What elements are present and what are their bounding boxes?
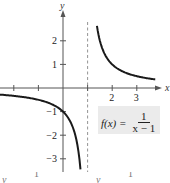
cropped-caption-fragments: y 1 y 1 [0,172,170,183]
function-label: f(x) = 1 x − 1 [101,111,155,134]
x-tick-label: 3 [134,92,139,103]
y-axis-label: y [59,0,65,11]
fragment-y-left: y [2,174,6,183]
curve-left-branch [0,95,80,170]
graph: xy2321−1−2−3 [0,0,170,183]
y-tick-label: 2 [52,35,57,46]
fraction-denominator: x − 1 [132,123,155,134]
axes [0,10,162,172]
function-curves [0,26,155,169]
y-axis-arrow-icon [61,10,66,17]
y-tick-label: −3 [46,153,57,164]
function-fraction: 1 x − 1 [132,111,155,134]
fragment-y-right: y [96,174,100,183]
x-axis-label: x [164,82,170,93]
tick-marks [14,41,137,159]
x-tick-label: 2 [109,92,114,103]
tick-labels: xy2321−1−2−3 [46,0,170,164]
function-label-lhs: f(x) = [101,117,126,129]
y-tick-label: 1 [52,59,57,70]
fragment-one-right: 1 [128,172,133,179]
x-axis-arrow-icon [155,86,162,91]
fragment-one-left: 1 [34,172,39,179]
curve-right-branch [97,26,155,80]
y-tick-label: −1 [46,106,57,117]
y-tick-label: −2 [46,130,57,141]
